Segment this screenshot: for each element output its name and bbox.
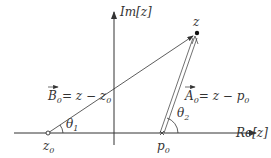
x-axis-label: Re[z]	[235, 126, 268, 140]
svg-text:A0= z − p0: A0= z − p0	[184, 89, 249, 105]
p0-label: p0	[157, 139, 170, 155]
y-axis-label: Im[z]	[119, 5, 152, 19]
complex-plane-diagram: z z0 p0 Re[z] Im[z] θ1 θ2 B0= z − z0 A0=…	[0, 0, 271, 158]
theta2-label: θ2	[177, 106, 189, 122]
b0-label: B0= z − z0	[47, 87, 111, 105]
theta1-label: θ1	[66, 117, 78, 133]
a0-label: A0= z − p0	[184, 87, 249, 105]
z-label: z	[192, 15, 200, 29]
svg-text:B0= z − z0: B0= z − z0	[47, 89, 111, 105]
point-z0	[46, 131, 50, 135]
point-z	[195, 31, 199, 35]
theta1-arc	[60, 125, 63, 133]
z0-label: z0	[42, 139, 54, 155]
